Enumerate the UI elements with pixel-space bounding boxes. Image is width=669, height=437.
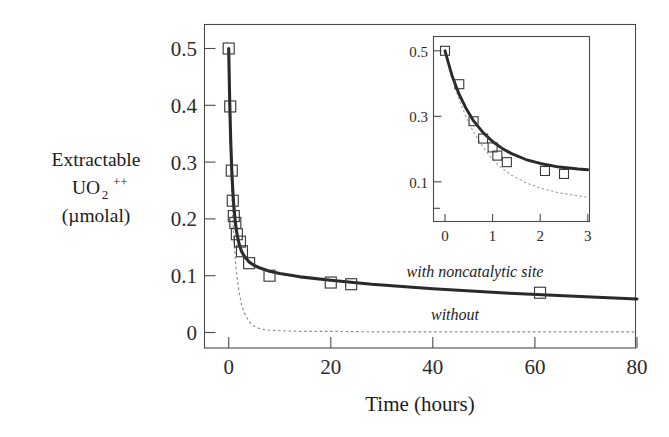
y-axis-title-line3: (µmolal) bbox=[62, 205, 131, 227]
x-tick-label-4: 80 bbox=[627, 355, 648, 379]
x-tick-0: 0 bbox=[223, 337, 234, 379]
y-tick-label-2: 0.3 bbox=[171, 151, 197, 175]
x-tick-label-1: 20 bbox=[320, 355, 341, 379]
y-tick-0.3: 0.3 bbox=[171, 151, 216, 175]
main-x-ticks: 0 20 40 60 80 bbox=[223, 337, 647, 379]
uranium-extraction-chart: Extractable UO 2 ++ (µmolal) 0.5 0.4 0.3 bbox=[0, 0, 669, 437]
data-point-marker bbox=[535, 287, 546, 298]
y-axis-title: Extractable UO 2 ++ (µmolal) bbox=[52, 149, 141, 227]
inset-x-tick-label-1: 1 bbox=[489, 228, 497, 244]
inset-x-tick-label-3: 3 bbox=[584, 228, 592, 244]
data-point-marker bbox=[227, 195, 238, 206]
x-tick-80: 80 bbox=[627, 337, 648, 379]
data-point-marker bbox=[244, 258, 255, 269]
data-point-marker bbox=[325, 277, 336, 288]
y-tick-label-0: 0.5 bbox=[171, 37, 197, 61]
data-point-marker bbox=[346, 279, 357, 290]
data-point-marker bbox=[226, 165, 237, 176]
x-tick-label-2: 40 bbox=[422, 355, 443, 379]
y-tick-label-4: 0.1 bbox=[171, 264, 197, 288]
data-point-marker bbox=[264, 270, 275, 281]
y-tick-label-3: 0.2 bbox=[171, 207, 197, 231]
annotation-without: without bbox=[431, 306, 480, 323]
y-axis-title-uo2-superscript: ++ bbox=[113, 174, 128, 189]
x-tick-60: 60 bbox=[524, 337, 545, 379]
inset-y-tick-label-2: 0.1 bbox=[409, 175, 428, 191]
y-tick-0: 0 bbox=[187, 321, 216, 345]
y-tick-0.5: 0.5 bbox=[171, 37, 216, 61]
data-point-marker bbox=[225, 101, 236, 112]
data-point-marker bbox=[223, 43, 234, 54]
y-tick-label-5: 0 bbox=[187, 321, 198, 345]
x-tick-label-0: 0 bbox=[223, 355, 234, 379]
annotation-with-noncatalytic-site: with noncatalytic site bbox=[407, 263, 544, 281]
x-tick-label-3: 60 bbox=[524, 355, 545, 379]
y-tick-0.2: 0.2 bbox=[171, 207, 216, 231]
main-y-ticks: 0.5 0.4 0.3 0.2 0.1 0 bbox=[171, 37, 216, 345]
figure-container: Extractable UO 2 ++ (µmolal) 0.5 0.4 0.3 bbox=[0, 0, 669, 437]
y-axis-title-uo2-subscript: 2 bbox=[102, 187, 109, 202]
y-axis-title-line1: Extractable bbox=[52, 149, 141, 170]
data-point-marker bbox=[230, 217, 241, 228]
y-axis-title-uo2-base: UO bbox=[72, 177, 100, 198]
y-tick-0.1: 0.1 bbox=[171, 264, 216, 288]
x-tick-20: 20 bbox=[320, 337, 341, 379]
inset-x-tick-label-2: 2 bbox=[536, 228, 544, 244]
inset-plot: 0.5 0.3 0.1 0 1 bbox=[409, 36, 591, 244]
inset-y-tick-label-0: 0.5 bbox=[409, 44, 428, 60]
x-tick-40: 40 bbox=[422, 337, 443, 379]
inset-x-tick-label-0: 0 bbox=[441, 228, 449, 244]
inset-y-tick-label-1: 0.3 bbox=[409, 109, 428, 125]
x-axis-title: Time (hours) bbox=[365, 392, 474, 416]
y-tick-0.4: 0.4 bbox=[171, 94, 216, 118]
y-axis-title-line2: UO 2 ++ bbox=[72, 174, 128, 202]
data-point-marker bbox=[236, 246, 247, 257]
y-tick-label-1: 0.4 bbox=[171, 94, 198, 118]
